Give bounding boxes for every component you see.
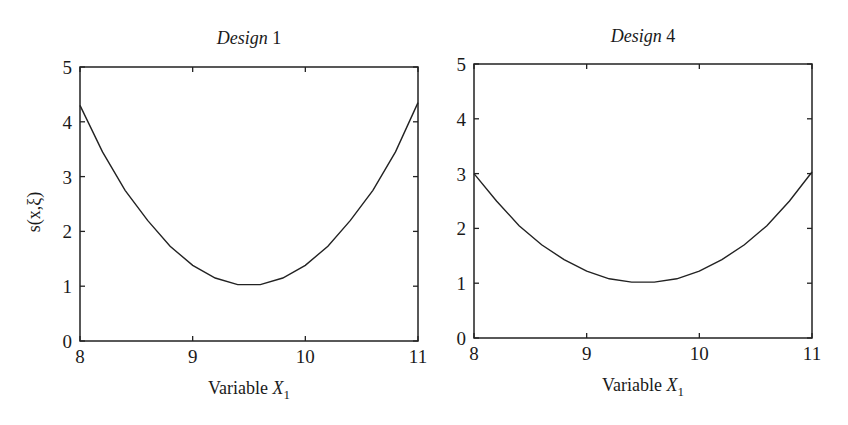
x-axis-ticks: 891011 <box>75 67 427 367</box>
x-tick-label: 11 <box>409 346 427 367</box>
x-tick-label: 10 <box>690 343 709 364</box>
y-tick-label: 0 <box>457 328 467 349</box>
plot-frame <box>474 64 812 338</box>
y-tick-label: 5 <box>63 57 73 78</box>
chart-title: Design 4 <box>610 26 676 46</box>
y-tick-label: 2 <box>457 218 467 239</box>
y-axis-ticks: 012345 <box>457 54 813 349</box>
y-tick-label: 2 <box>63 221 73 242</box>
x-tick-label: 8 <box>469 343 479 364</box>
x-tick-label: 9 <box>188 346 198 367</box>
y-axis-label: s(x,ξ) <box>24 192 45 233</box>
x-tick-label: 9 <box>582 343 592 364</box>
chart-title: Design 1 <box>216 28 282 48</box>
y-tick-label: 5 <box>457 54 467 75</box>
data-line <box>474 172 812 282</box>
x-axis-ticks: 891011 <box>469 64 821 364</box>
chart-design-4: Design 4 012345 891011 Variable X1 <box>457 26 822 399</box>
y-tick-label: 3 <box>63 167 73 188</box>
x-tick-label: 8 <box>75 346 85 367</box>
x-tick-label: 10 <box>296 346 315 367</box>
plot-frame <box>80 67 418 341</box>
x-tick-label: 11 <box>803 343 821 364</box>
y-tick-label: 4 <box>63 112 73 133</box>
y-tick-label: 4 <box>457 109 467 130</box>
y-tick-label: 0 <box>63 331 73 352</box>
chart-design-1: Design 1 012345 891011 Variable X1 s(x,ξ… <box>24 28 427 402</box>
data-line <box>80 103 418 285</box>
x-axis-label: Variable X1 <box>602 375 684 399</box>
figure: Design 1 012345 891011 Variable X1 s(x,ξ… <box>0 0 848 425</box>
y-tick-label: 3 <box>457 164 467 185</box>
y-axis-ticks: 012345 <box>63 57 419 352</box>
y-tick-label: 1 <box>457 273 467 294</box>
x-axis-label: Variable X1 <box>208 378 290 402</box>
y-tick-label: 1 <box>63 276 73 297</box>
